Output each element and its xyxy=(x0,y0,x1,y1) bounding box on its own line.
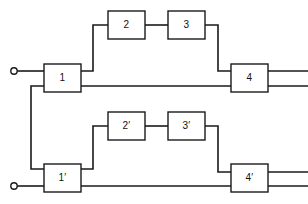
wire-block-3-to-block-4 xyxy=(205,25,231,71)
block-4-prime: 4′ xyxy=(231,164,268,192)
wire-block-1-cross-to-block-1-prime xyxy=(31,86,44,169)
wires-layer xyxy=(17,25,308,186)
block-2-label: 2 xyxy=(124,19,130,30)
block-2-prime: 2′ xyxy=(108,112,145,140)
diagram-svg: 12341′2′3′4′ xyxy=(0,0,308,204)
block-4-label: 4 xyxy=(247,72,253,83)
terminal-top-input-icon xyxy=(11,68,17,74)
block-3-prime: 3′ xyxy=(168,112,205,140)
block-diagram-canvas: 12341′2′3′4′ xyxy=(0,0,308,204)
block-2-prime-label: 2′ xyxy=(122,120,130,131)
block-2: 2 xyxy=(108,11,145,39)
block-3-label: 3 xyxy=(184,19,190,30)
terminal-bottom-input-icon xyxy=(11,183,17,189)
wire-block-3-prime-to-block-4-prime xyxy=(205,126,231,172)
wire-block-1-prime-to-block-2-prime xyxy=(81,126,108,169)
block-3: 3 xyxy=(168,11,205,39)
block-4: 4 xyxy=(231,64,268,92)
terminals-layer xyxy=(11,68,17,189)
block-1: 1 xyxy=(44,64,81,92)
block-1-prime-label: 1′ xyxy=(58,172,66,183)
block-1-prime: 1′ xyxy=(44,164,81,192)
block-4-prime-label: 4′ xyxy=(245,172,253,183)
block-1-label: 1 xyxy=(60,72,66,83)
block-3-prime-label: 3′ xyxy=(182,120,190,131)
wire-block-1-to-block-2 xyxy=(81,25,108,71)
blocks-layer: 12341′2′3′4′ xyxy=(44,11,268,192)
